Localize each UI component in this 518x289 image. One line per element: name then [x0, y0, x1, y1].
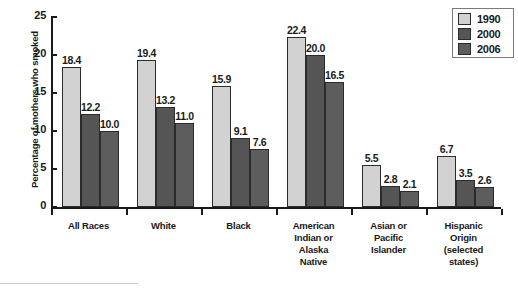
bar-value-label: 22.4	[280, 24, 313, 36]
bar	[325, 82, 344, 207]
bar	[287, 37, 306, 207]
bar	[475, 187, 494, 207]
legend-swatch	[458, 13, 471, 25]
bar	[437, 156, 456, 207]
bar	[250, 149, 269, 207]
bar-value-label: 12.2	[74, 101, 107, 113]
bar-value-label: 13.2	[149, 94, 182, 106]
y-axis-line	[51, 16, 53, 209]
x-axis-category-line: states)	[426, 256, 501, 268]
x-axis-category-line: Pacific	[351, 232, 426, 244]
y-axis-title: Percentage of mothers who smoked	[29, 10, 40, 210]
x-axis-category-line: All Races	[51, 220, 126, 232]
bar-value-label: 5.5	[355, 152, 388, 164]
legend-swatch	[458, 43, 471, 55]
x-axis-category-line: White	[126, 220, 201, 232]
bar-value-label: 19.4	[130, 47, 163, 59]
bar-value-label: 11.0	[168, 110, 201, 122]
y-axis-tick-label: 15	[6, 85, 46, 97]
bar	[400, 191, 419, 207]
y-axis-tick-label: 5	[6, 161, 46, 173]
y-axis-tick	[51, 16, 57, 18]
y-axis-tick	[51, 130, 57, 132]
x-axis-category-line: Asian or	[351, 220, 426, 232]
bar	[175, 123, 194, 207]
y-axis-tick-label: 10	[6, 123, 46, 135]
x-axis-tick	[201, 209, 203, 215]
x-axis-tick	[51, 209, 53, 215]
x-axis-category-label: All Races	[51, 220, 126, 232]
bar-value-label: 6.7	[430, 143, 463, 155]
y-axis-tick	[51, 168, 57, 170]
x-axis-category-line: Islander	[351, 244, 426, 256]
x-axis-category-label: AmericanIndian orAlaskaNative	[276, 220, 351, 268]
legend-label: 2006	[477, 43, 500, 55]
bar	[62, 67, 81, 207]
x-axis-tick	[126, 209, 128, 215]
bar	[100, 131, 119, 207]
x-axis-category-label: Asian orPacificIslander	[351, 220, 426, 256]
x-axis-category-line: Alaska	[276, 244, 351, 256]
x-axis-category-line: Black	[201, 220, 276, 232]
x-axis-category-line: American	[276, 220, 351, 232]
scan-edge	[0, 283, 138, 284]
bar-value-label: 20.0	[299, 42, 332, 54]
legend-item: 2000	[458, 28, 500, 40]
bar-value-label: 15.9	[205, 73, 238, 85]
x-axis-tick	[501, 209, 503, 215]
x-axis-category-line: Indian or	[276, 232, 351, 244]
legend: 199020002006	[452, 8, 514, 58]
x-axis-category-line: (selected	[426, 244, 501, 256]
x-axis-category-line: Hispanic	[426, 220, 501, 232]
bar	[362, 165, 381, 207]
bar-value-label: 9.1	[224, 125, 257, 137]
x-axis-category-label: HispanicOrigin(selectedstates)	[426, 220, 501, 268]
legend-item: 2006	[458, 43, 500, 55]
bar	[137, 60, 156, 207]
x-axis-tick	[276, 209, 278, 215]
legend-swatch	[458, 28, 471, 40]
x-axis-tick	[351, 209, 353, 215]
x-axis-category-line: Origin	[426, 232, 501, 244]
bar-value-label: 2.6	[468, 174, 501, 186]
bar-value-label: 7.6	[243, 136, 276, 148]
x-axis-category-label: White	[126, 220, 201, 232]
legend-label: 1990	[477, 13, 500, 25]
y-axis-tick	[51, 92, 57, 94]
bar-value-label: 2.1	[393, 178, 426, 190]
legend-label: 2000	[477, 28, 500, 40]
bar-chart: Percentage of mothers who smoked 0510152…	[0, 0, 518, 289]
bar-value-label: 16.5	[318, 69, 351, 81]
bar	[212, 86, 231, 207]
y-axis-tick-label: 25	[6, 9, 46, 21]
x-axis-tick	[426, 209, 428, 215]
y-axis-tick-label: 20	[6, 47, 46, 59]
x-axis-category-line: Native	[276, 256, 351, 268]
bar-value-label: 10.0	[93, 118, 126, 130]
legend-item: 1990	[458, 13, 500, 25]
y-axis-tick-label: 0	[6, 199, 46, 211]
bar-value-label: 18.4	[55, 54, 88, 66]
x-axis-category-label: Black	[201, 220, 276, 232]
